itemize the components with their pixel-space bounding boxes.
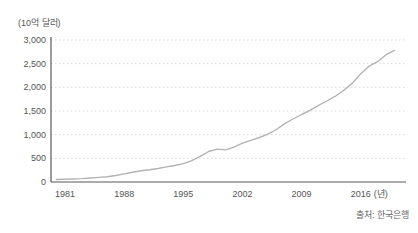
line-chart-plot: 05001,0001,5002,0002,5003,00019811988199… [0, 0, 418, 233]
y-tick-label: 1,000 [23, 130, 46, 140]
y-tick-label: 2,500 [23, 59, 46, 69]
line-chart: (10억 달러) 05001,0001,5002,0002,5003,00019… [0, 0, 418, 233]
x-tick-label: 1988 [114, 189, 134, 199]
x-tick-label: 2016 [351, 189, 371, 199]
x-tick-label: 2009 [292, 189, 312, 199]
x-tick-label: 2002 [232, 189, 252, 199]
data-line [57, 50, 395, 179]
y-tick-label: 0 [41, 177, 46, 187]
x-tick-label: 1995 [173, 189, 193, 199]
x-tick-label: 1981 [55, 189, 75, 199]
x-axis-unit-label: (년) [374, 189, 388, 199]
y-tick-label: 2,000 [23, 82, 46, 92]
y-tick-label: 3,000 [23, 35, 46, 45]
y-tick-label: 1,500 [23, 106, 46, 116]
source-label: 출처: 한국은행 [356, 208, 409, 221]
y-tick-label: 500 [31, 153, 46, 163]
